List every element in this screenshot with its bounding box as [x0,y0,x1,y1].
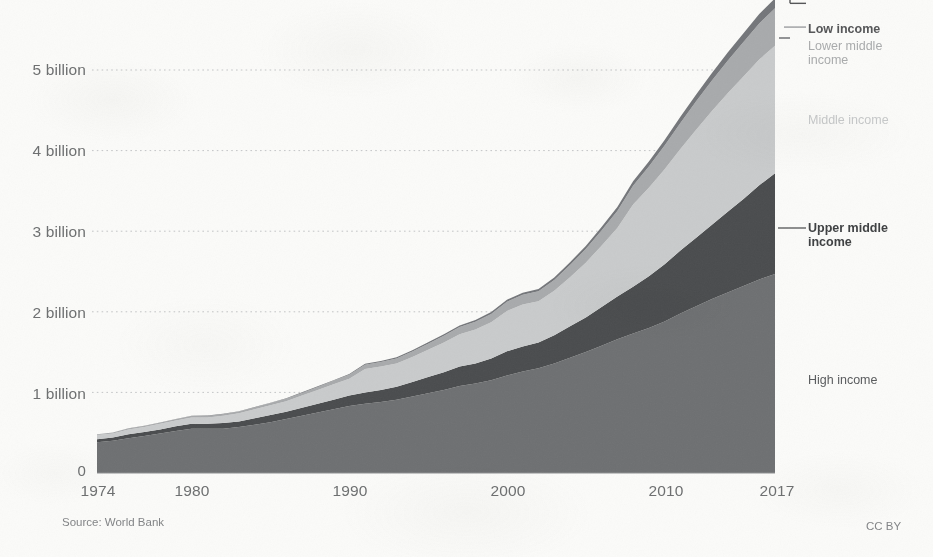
legend-label-upper-middle-income-line1: Upper middle [808,222,888,236]
y-tick-label-5b: 5 billion [0,61,86,79]
legend-label-upper-middle-income-line2: income [808,236,852,250]
x-tick-label-2017: 2017 [760,482,795,500]
y-tick-label-3b: 3 billion [0,223,86,241]
legend-label-lower-middle-income-line2: income [808,54,848,68]
y-tick-label-1b: 1 billion [0,385,86,403]
legend-label-high-income: High income [808,374,877,388]
y-tick-label-0: 0 [0,462,86,479]
y-tick-label-4b: 4 billion [0,142,86,160]
y-tick-label-2b: 2 billion [0,304,86,322]
source-note: Source: World Bank [62,516,164,528]
x-tick-label-1990: 1990 [333,482,368,500]
cc-by-license-note: CC BY [866,520,901,532]
chart-container: 5 billion 4 billion 3 billion 2 billion … [0,0,933,557]
legend-label-middle-income: Middle income [808,114,889,128]
x-tick-label-2000: 2000 [491,482,526,500]
stacked-area-chart [0,0,933,557]
x-tick-label-2010: 2010 [649,482,684,500]
x-tick-label-1974: 1974 [81,482,116,500]
x-tick-label-1980: 1980 [175,482,210,500]
legend-label-low-income: Low income [808,23,880,37]
legend-label-lower-middle-income-line1: Lower middle [808,40,882,54]
